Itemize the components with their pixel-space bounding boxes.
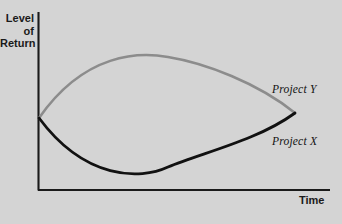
series-label-project-x: Project X: [272, 135, 317, 147]
curve-project-y: [39, 55, 295, 118]
series-label-project-y: Project Y: [272, 83, 317, 95]
plot-area: [0, 0, 342, 224]
x-axis-title: Time: [299, 194, 324, 207]
y-axis-title: Level of Return: [0, 12, 34, 50]
curve-project-x: [39, 113, 295, 174]
chart-figure: Level of Return Time Project Y Project X: [0, 0, 342, 224]
